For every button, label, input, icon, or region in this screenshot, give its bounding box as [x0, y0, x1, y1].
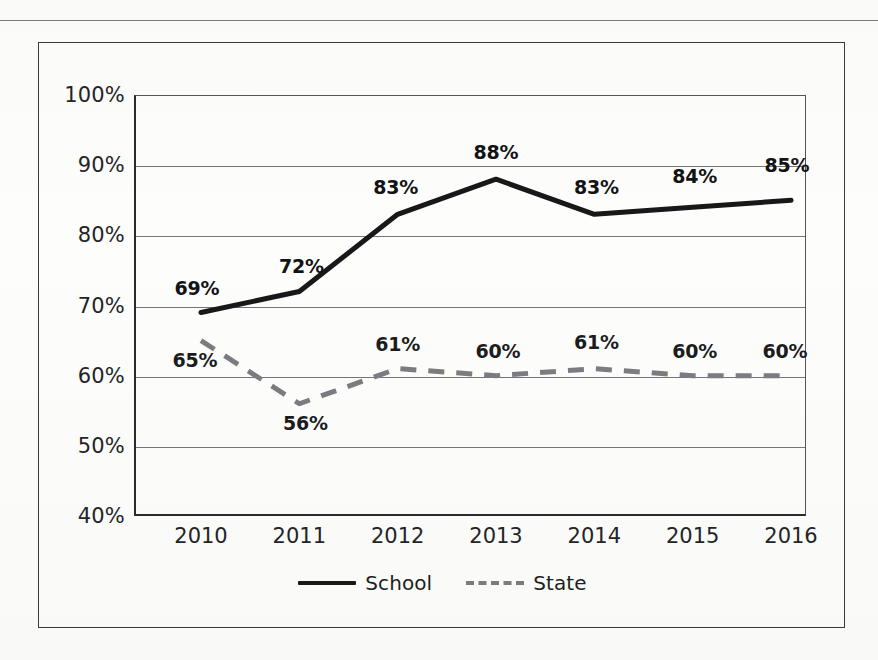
y-axis-tick-label: 60%	[78, 364, 125, 388]
chart-legend: School State	[39, 563, 846, 603]
x-axis-tick-label: 2012	[371, 524, 424, 548]
data-point-label: 85%	[765, 154, 810, 176]
series-plot	[134, 95, 806, 516]
data-point-label: 60%	[672, 340, 717, 362]
data-point-label: 61%	[375, 333, 420, 355]
y-axis-tick-label: 100%	[64, 83, 125, 107]
y-axis-tick-label: 70%	[78, 294, 125, 318]
data-point-label: 60%	[763, 340, 808, 362]
dashed-line-swatch	[466, 581, 524, 585]
x-axis-tick-label: 2011	[273, 524, 326, 548]
series-line-school	[201, 179, 791, 312]
data-point-label: 61%	[574, 331, 619, 353]
x-axis-tick-label: 2010	[174, 524, 227, 548]
solid-line-swatch	[298, 581, 356, 585]
data-point-label: 88%	[474, 141, 519, 163]
chart-frame: 100%90%80%70%60%50%40% 20102011201220132…	[38, 42, 845, 628]
top-horizontal-rule	[0, 20, 878, 21]
x-axis-tick-labels: 2010201120122013201420152016	[134, 524, 806, 554]
data-point-label: 65%	[173, 349, 218, 371]
data-point-label: 69%	[175, 277, 220, 299]
x-axis-tick-label: 2013	[469, 524, 522, 548]
x-axis-tick-label: 2015	[666, 524, 719, 548]
x-axis-tick-label: 2014	[568, 524, 621, 548]
data-point-label: 56%	[283, 412, 328, 434]
y-axis-tick-label: 90%	[78, 153, 125, 177]
x-axis-tick-label: 2016	[764, 524, 817, 548]
data-point-label: 83%	[373, 176, 418, 198]
data-point-label: 60%	[476, 340, 521, 362]
legend-label-school: School	[365, 571, 432, 595]
data-point-label: 84%	[672, 165, 717, 187]
legend-label-state: State	[533, 571, 586, 595]
y-axis-tick-labels: 100%90%80%70%60%50%40%	[39, 95, 125, 516]
y-axis-tick-label: 80%	[78, 223, 125, 247]
legend-item-state[interactable]: State	[466, 571, 586, 595]
legend-item-school[interactable]: School	[298, 571, 432, 595]
data-point-label: 72%	[279, 255, 324, 277]
y-axis-tick-label: 40%	[78, 504, 125, 528]
data-point-label: 83%	[574, 176, 619, 198]
y-axis-tick-label: 50%	[78, 434, 125, 458]
